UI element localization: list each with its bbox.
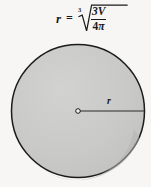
circle-diagram (0, 0, 151, 187)
sphere-radius-figure: r = 3 3V 4π (0, 0, 151, 187)
radius-label-r: r (107, 96, 111, 106)
center-point-icon (76, 109, 81, 114)
